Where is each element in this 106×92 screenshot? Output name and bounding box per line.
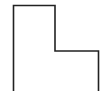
l-shape-outline bbox=[14, 6, 99, 92]
l-shape-diagram bbox=[0, 0, 106, 91]
